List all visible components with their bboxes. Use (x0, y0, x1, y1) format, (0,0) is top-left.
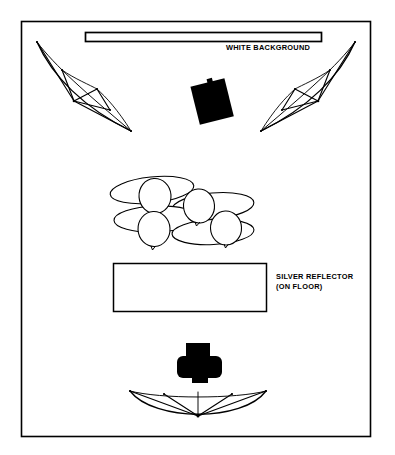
lighting-diagram: WHITE BACKGROUND SILVER REFLECTOR(ON FLO… (0, 0, 395, 455)
diagram-canvas (0, 0, 395, 455)
silver-reflector-panel (114, 264, 267, 312)
label-silver-reflector-line2: (ON FLOOR) (276, 282, 322, 291)
label-silver-reflector-line1: SILVER REFLECTOR (276, 272, 353, 281)
label-silver-reflector: SILVER REFLECTOR(ON FLOOR) (276, 272, 353, 291)
white-background-bar (86, 33, 322, 42)
label-white-background: WHITE BACKGROUND (226, 43, 310, 53)
